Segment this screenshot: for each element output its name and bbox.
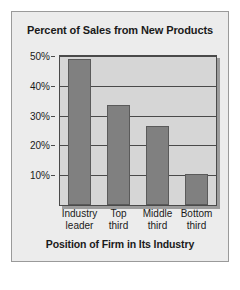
x-category-label: Topthird bbox=[97, 208, 140, 231]
bar bbox=[185, 174, 208, 205]
plot-frame bbox=[59, 55, 217, 206]
x-category-label: Industryleader bbox=[58, 208, 101, 231]
y-tick-label: 20% bbox=[30, 140, 50, 151]
x-category-label: Middlethird bbox=[136, 208, 179, 231]
bar bbox=[68, 59, 91, 205]
bar bbox=[107, 105, 130, 205]
y-tick-label: 30% bbox=[30, 110, 50, 121]
y-tick-mark bbox=[51, 145, 55, 146]
chart-card: Percent of Sales from New Products 10%20… bbox=[11, 11, 229, 262]
y-tick-label: 10% bbox=[30, 170, 50, 181]
x-category-label: Bottomthird bbox=[175, 208, 218, 231]
chart-title: Percent of Sales from New Products bbox=[12, 24, 228, 36]
y-tick-label: 50% bbox=[30, 51, 50, 62]
y-tick-mark bbox=[51, 175, 55, 176]
plot-area bbox=[59, 55, 217, 206]
y-tick-label: 40% bbox=[30, 80, 50, 91]
bar bbox=[146, 126, 169, 205]
x-axis-title: Position of Firm in Its Industry bbox=[12, 238, 228, 250]
gridline-50 bbox=[60, 56, 216, 57]
y-tick-mark bbox=[51, 56, 55, 57]
x-axis-category-labels: IndustryleaderTopthirdMiddlethirdBottomt… bbox=[59, 208, 217, 238]
y-tick-mark bbox=[51, 86, 55, 87]
y-axis: 10%20%30%40%50% bbox=[12, 55, 55, 206]
y-tick-mark bbox=[51, 116, 55, 117]
